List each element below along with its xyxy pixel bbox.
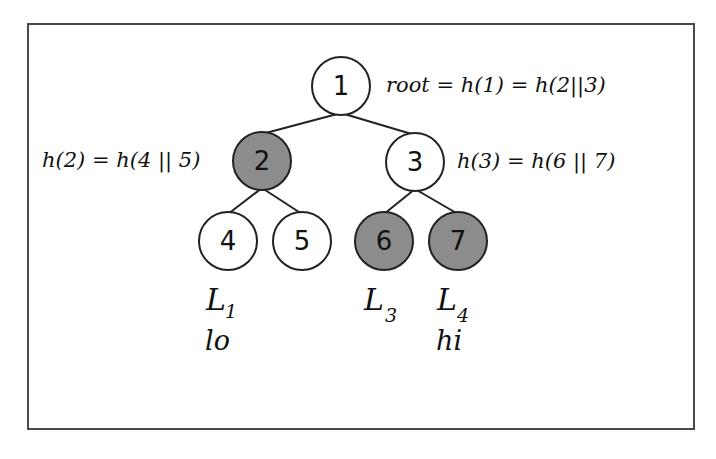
leaf-label-l4: L 4 xyxy=(436,282,469,326)
svg-text:L: L xyxy=(363,282,384,317)
tree-node-7: 7 xyxy=(429,212,487,270)
svg-text:1: 1 xyxy=(225,300,237,322)
svg-text:L: L xyxy=(205,282,226,317)
svg-text:3: 3 xyxy=(385,304,397,326)
edge-2-4 xyxy=(228,188,262,214)
edge-2-5 xyxy=(262,188,302,214)
node-label: 5 xyxy=(294,226,311,256)
edge-3-6 xyxy=(384,189,415,214)
tree-node-6: 6 xyxy=(355,212,413,270)
edge-3-7 xyxy=(415,189,458,214)
leaf-label-l1: L 1 xyxy=(205,282,237,322)
tree-node-5: 5 xyxy=(273,212,331,270)
root-formula: root = h(1) = h(2||3) xyxy=(386,73,606,98)
svg-text:4: 4 xyxy=(456,304,469,326)
edge-1-2 xyxy=(262,113,341,134)
node-label: 6 xyxy=(376,226,393,256)
edge-1-3 xyxy=(341,113,415,135)
merkle-tree-diagram: 1234567 root = h(1) = h(2||3) h(2) = h(4… xyxy=(0,0,716,459)
tree-node-3: 3 xyxy=(386,133,444,191)
node3-formula: h(3) = h(6 || 7) xyxy=(457,149,615,174)
node-label: 2 xyxy=(254,146,271,176)
range-label-lo: lo xyxy=(205,325,230,356)
tree-node-1: 1 xyxy=(312,57,370,115)
node-label: 1 xyxy=(333,71,350,101)
svg-text:L: L xyxy=(436,282,457,317)
node2-formula: h(2) = h(4 || 5) xyxy=(42,148,200,173)
tree-node-2: 2 xyxy=(233,132,291,190)
node-label: 4 xyxy=(220,226,237,256)
tree-node-4: 4 xyxy=(199,212,257,270)
diagram-canvas: 1234567 root = h(1) = h(2||3) h(2) = h(4… xyxy=(0,0,716,459)
leaf-label-l3: L 3 xyxy=(363,282,397,326)
node-label: 3 xyxy=(407,147,424,177)
range-label-hi: hi xyxy=(436,325,462,356)
node-label: 7 xyxy=(450,226,467,256)
